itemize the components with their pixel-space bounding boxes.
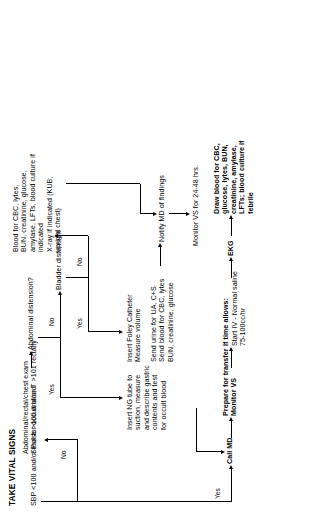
arrowhead-prepare-to-iftime xyxy=(229,347,233,351)
node-abdominal-exam: Abdominal/rectal/chest exam Stool for oc… xyxy=(22,361,39,454)
flowchart-image: TAKE VITAL SIGNS SBP <100 and/or Pulse >… xyxy=(0,0,322,514)
node-draw-blood: Draw blood for CBC, glucose, lytes, BUN,… xyxy=(213,140,255,214)
arrowhead-blood-to-notify xyxy=(153,213,157,217)
label-distension-no: No xyxy=(48,318,55,326)
arrowhead-root-no xyxy=(44,439,48,443)
connector-urine-to-notify xyxy=(160,246,161,266)
label-distension-yes: Yes xyxy=(48,384,55,395)
arrowhead-bladder-yes xyxy=(119,331,123,335)
connector-prepare-to-iftime xyxy=(231,350,232,368)
label-root-no: No xyxy=(60,451,67,459)
arrowhead-distension-no xyxy=(58,291,62,295)
connector-root-no-vertical xyxy=(48,439,78,440)
node-call-md: Call MD xyxy=(226,437,234,464)
node-abdominal-distension: Abdominal distension? xyxy=(27,277,35,350)
connector-blood-to-notify-vertical xyxy=(140,213,154,214)
arrowhead-urine-to-notify xyxy=(158,243,162,247)
arrowhead-notify-to-monitor xyxy=(186,213,190,217)
chart-title: TAKE VITAL SIGNS xyxy=(8,429,17,506)
connector-bladder-yes-vertical xyxy=(88,331,120,332)
node-ekg: EKG xyxy=(227,240,235,256)
node-notify-md: Notify MD of findings xyxy=(158,175,166,242)
connector-distension-yes-vertical xyxy=(60,397,120,398)
connector-root-no-horizontal xyxy=(77,440,78,502)
node-insert-foley: Insert Foley Catheter Measure volume xyxy=(126,294,143,362)
arrowhead-callmd-top xyxy=(221,451,225,455)
connector-iftime-to-ekg xyxy=(231,260,232,278)
connector-callmd-top-stem xyxy=(196,451,222,452)
arrowhead-distension-yes xyxy=(119,397,123,401)
label-bladder-yes: Yes xyxy=(76,318,83,329)
connector-distension-yes-horizontal xyxy=(60,338,61,398)
connector-callmd-to-prepare xyxy=(231,420,232,438)
connector-bladder-yes-horizontal xyxy=(88,278,89,332)
connector-callmd-top-horizontal xyxy=(196,408,197,452)
connector-distension-no-horizontal xyxy=(60,294,61,338)
node-ng-tube: Insert NG tube to suction, measure and d… xyxy=(126,365,168,430)
connector-root-yes-vertical xyxy=(77,501,231,502)
connector-exam-to-distension xyxy=(31,354,32,368)
connector-distension-stem xyxy=(38,337,60,338)
node-monitor-vs: Monitor VS for 24-48 hrs. xyxy=(192,165,200,246)
node-if-time-allows: If time allows: xyxy=(222,298,230,346)
node-if-time-allows-detail: Start IV - Normal saline 75-100cc/hr xyxy=(231,271,248,346)
connector-blood-down xyxy=(66,183,140,184)
node-blood-for-cbc: Blood for CBC, lytes, BUN, creatinine, g… xyxy=(12,154,62,252)
connector-root-stem xyxy=(41,501,77,502)
connector-ekg-to-draw xyxy=(231,218,232,236)
connector-blood-to-notify xyxy=(140,184,141,214)
connector-bladder-stem xyxy=(66,277,88,278)
connector-bladder-no-horizontal xyxy=(88,236,89,278)
flowchart-canvas: TAKE VITAL SIGNS SBP <100 and/or Pulse >… xyxy=(0,0,322,514)
label-bladder-no: No xyxy=(76,258,83,266)
arrowhead-ekg-to-draw xyxy=(229,215,233,219)
node-send-urine: Send urine for UA, C+S Send blood for CB… xyxy=(150,279,175,362)
connector-notify-to-monitor xyxy=(169,213,187,214)
arrowhead-root-yes xyxy=(229,465,233,469)
arrowhead-iftime-to-ekg xyxy=(229,257,233,261)
arrowhead-callmd-to-prepare xyxy=(229,417,233,421)
arrowhead-exam-to-distension xyxy=(29,351,33,355)
connector-root-yes-horizontal xyxy=(231,468,232,502)
connector-bladder-no-vertical xyxy=(58,235,88,236)
label-root-yes: Yes xyxy=(214,488,221,499)
